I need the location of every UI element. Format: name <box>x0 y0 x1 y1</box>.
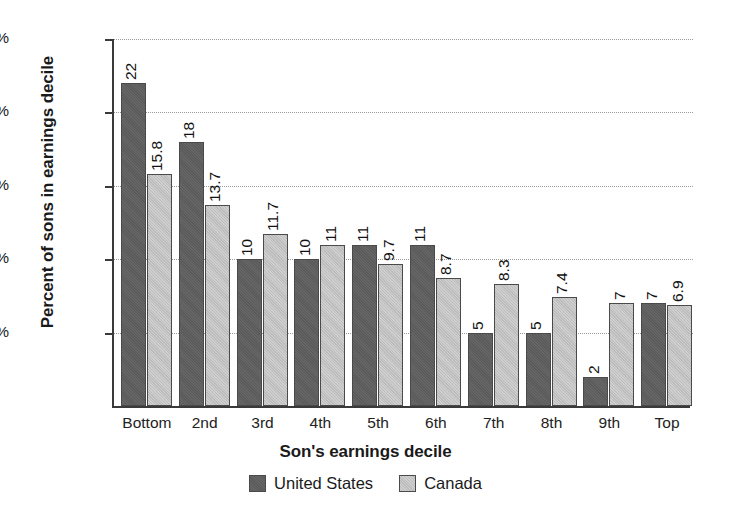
y-axis-title: Percent of sons in earnings decile <box>38 2 58 382</box>
bar-canada[interactable]: 8.7 <box>436 278 461 406</box>
y-axis-tick-label: 20% <box>0 102 9 120</box>
bar-value-label: 8.7 <box>437 254 455 276</box>
bar-value-label: 11 <box>354 225 372 241</box>
bar-united-states[interactable]: 22 <box>121 83 146 406</box>
bar-group: 2215.8 <box>121 39 173 406</box>
bar-canada[interactable]: 11 <box>320 245 345 406</box>
light-gray-swatch <box>399 475 416 492</box>
bar-value-label: 22 <box>122 63 140 80</box>
bar-united-states[interactable]: 5 <box>526 333 551 406</box>
bar-value-label: 7 <box>643 292 661 301</box>
bar-value-label: 11.7 <box>264 202 282 231</box>
x-axis-tick-labels: Bottom2nd3rd4th5th6th7th8th9thTop <box>112 414 693 440</box>
bar-value-label: 18 <box>180 122 198 139</box>
x-axis-tick-label: Top <box>627 414 707 432</box>
bar-group: 76.9 <box>641 39 693 406</box>
bar-group: 1813.7 <box>179 39 231 406</box>
bars-layer: 2215.81813.71011.71011119.7118.758.357.4… <box>114 39 692 408</box>
bar-value-label: 2 <box>585 365 603 374</box>
bar-united-states[interactable]: 11 <box>352 245 377 406</box>
chart-legend: United StatesCanada <box>0 474 731 493</box>
bar-value-label: 7 <box>611 292 629 301</box>
bar-united-states[interactable]: 5 <box>468 333 493 406</box>
bar-value-label: 6.9 <box>669 280 687 302</box>
bar-united-states[interactable]: 10 <box>294 259 319 406</box>
dark-gray-swatch <box>249 475 266 492</box>
bar-group: 1011 <box>294 39 346 406</box>
bar-value-label: 9.7 <box>380 239 398 261</box>
legend-item-label: Canada <box>424 474 482 493</box>
bar-value-label: 11 <box>411 225 429 241</box>
bar-value-label: 5 <box>469 321 487 330</box>
bar-united-states[interactable]: 2 <box>583 377 608 406</box>
bar-value-label: 10 <box>238 239 256 256</box>
bar-united-states[interactable]: 10 <box>237 259 262 406</box>
bar-value-label: 15.8 <box>148 141 166 171</box>
bar-group: 118.7 <box>410 39 462 406</box>
bar-canada[interactable]: 6.9 <box>667 305 692 406</box>
bar-canada[interactable]: 7.4 <box>552 297 577 406</box>
bar-chart-figure: Percent of sons in earnings decile 5%10%… <box>0 0 731 530</box>
y-axis-tick-label: 5% <box>0 323 9 341</box>
bar-canada[interactable]: 13.7 <box>205 205 230 406</box>
bar-group: 58.3 <box>468 39 520 406</box>
bar-group: 1011.7 <box>237 39 289 406</box>
bar-canada[interactable]: 15.8 <box>147 174 172 406</box>
bar-united-states[interactable]: 7 <box>641 303 666 406</box>
bar-value-label: 5 <box>527 321 545 330</box>
legend-item[interactable]: Canada <box>399 474 482 493</box>
y-axis-tick-label: 25% <box>0 29 9 47</box>
bar-canada[interactable]: 9.7 <box>378 264 403 406</box>
bar-united-states[interactable]: 11 <box>410 245 435 406</box>
plot-area: 2215.81813.71011.71011119.7118.758.357.4… <box>112 39 693 408</box>
bar-value-label: 10 <box>296 239 314 256</box>
bar-canada[interactable]: 8.3 <box>494 284 519 406</box>
bar-value-label: 11 <box>322 225 340 241</box>
bar-value-label: 7.4 <box>553 273 571 295</box>
bar-value-label: 8.3 <box>495 260 513 282</box>
bar-united-states[interactable]: 18 <box>179 142 204 406</box>
bar-group: 27 <box>583 39 635 406</box>
legend-item[interactable]: United States <box>249 474 373 493</box>
y-axis-tick-label: 10% <box>0 249 9 267</box>
legend-item-label: United States <box>274 474 373 493</box>
bar-value-label: 13.7 <box>206 172 224 202</box>
bar-canada[interactable]: 11.7 <box>263 234 288 406</box>
bar-canada[interactable]: 7 <box>609 303 634 406</box>
bar-group: 119.7 <box>352 39 404 406</box>
y-axis-tick-label: 15% <box>0 176 9 194</box>
bar-group: 57.4 <box>526 39 578 406</box>
x-axis-title: Son's earnings decile <box>0 442 731 462</box>
